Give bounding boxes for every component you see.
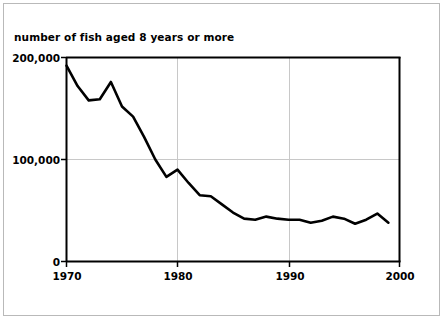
x-axis-label-2000: 2000 bbox=[375, 270, 425, 282]
data-series-line bbox=[67, 66, 389, 224]
chart-screenshot: number of fish aged 8 years or more 200,… bbox=[0, 0, 443, 319]
x-axis-label-1980: 1980 bbox=[153, 270, 203, 282]
y-axis-label-100000: 100,000 bbox=[8, 154, 60, 166]
x-axis-label-1990: 1990 bbox=[265, 270, 315, 282]
x-axis-label-1970: 1970 bbox=[42, 270, 92, 282]
y-axis-label-200000: 200,000 bbox=[8, 52, 60, 64]
y-axis-label-0: 0 bbox=[8, 256, 60, 268]
gridlines bbox=[66, 57, 400, 262]
axis-ticks bbox=[61, 58, 400, 268]
